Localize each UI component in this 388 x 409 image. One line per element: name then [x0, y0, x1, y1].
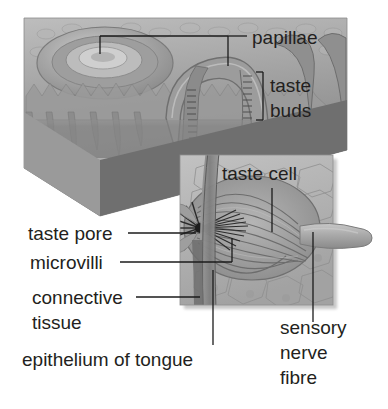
- tongue-taste-bud-diagram: papillae taste buds taste cell taste por…: [0, 0, 388, 409]
- label-taste-pore: taste pore: [28, 222, 113, 245]
- label-connective-tissue-line1: connective: [32, 286, 123, 309]
- label-sensory-nerve-line3: fibre: [280, 366, 317, 389]
- circumvallate-papilla: [37, 27, 173, 99]
- label-connective-tissue-line2: tissue: [32, 311, 82, 334]
- label-epithelium-of-tongue: epithelium of tongue: [22, 348, 193, 371]
- label-papillae: papillae: [252, 26, 318, 49]
- label-taste-cell: taste cell: [222, 162, 297, 185]
- label-sensory-nerve-line1: sensory: [280, 316, 347, 339]
- label-taste-buds-line2: buds: [270, 99, 311, 122]
- label-sensory-nerve-line2: nerve: [280, 341, 328, 364]
- label-microvilli: microvilli: [30, 251, 103, 274]
- label-taste-buds-line1: taste: [270, 74, 311, 97]
- sensory-nerve-fibre: [300, 223, 372, 248]
